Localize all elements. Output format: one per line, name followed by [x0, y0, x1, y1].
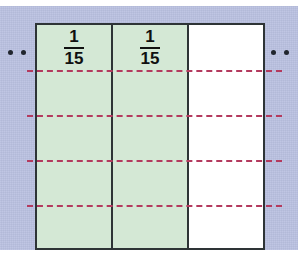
fraction-label-1: 1 15: [63, 28, 86, 67]
ellipsis-dot-right-2: [284, 50, 289, 55]
ellipsis-dot-left-2: [21, 50, 26, 55]
fraction-numerator: 1: [143, 28, 156, 45]
ellipsis-dot-right-1: [271, 50, 276, 55]
fraction-denominator: 15: [139, 50, 162, 67]
fraction-cell-2: 1 15: [113, 25, 189, 248]
fraction-denominator: 15: [63, 50, 86, 67]
fraction-bar: 1 15 1 15: [35, 23, 265, 250]
fraction-numerator: 1: [67, 28, 80, 45]
figure-canvas: 1 15 1 15: [0, 0, 298, 255]
fraction-cell-3: [189, 25, 263, 248]
fraction-label-2: 1 15: [139, 28, 162, 67]
fraction-cell-1: 1 15: [37, 25, 113, 248]
ellipsis-dot-left-1: [8, 50, 13, 55]
